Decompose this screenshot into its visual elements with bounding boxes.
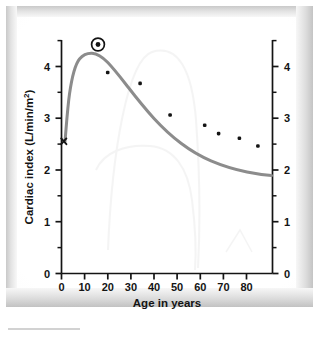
y-axis-title-paren: ) (23, 89, 35, 93)
circled-dot-icon (92, 38, 105, 51)
x-tick-label-50: 50 (171, 281, 183, 293)
x-axis-title: Age in years (133, 297, 201, 309)
right-axis: 0 1 2 3 4 (273, 40, 292, 280)
x-tick-label-30: 30 (125, 281, 137, 293)
left-axis-major-ticks (56, 67, 62, 274)
right-axis-major-ticks (273, 67, 279, 274)
left-tick-label-2: 2 (44, 164, 50, 176)
figure-page: 0 1 2 3 4 0 1 2 (0, 0, 325, 342)
left-tick-label-1: 1 (44, 216, 50, 228)
right-tick-label-4: 4 (284, 61, 291, 73)
cardiac-index-curve (65, 53, 272, 175)
right-tick-label-1: 1 (284, 216, 290, 228)
left-axis: 0 1 2 3 4 (44, 40, 62, 280)
x-tick-label-80: 80 (240, 281, 252, 293)
right-tick-label-3: 3 (284, 112, 290, 124)
data-point (217, 132, 221, 136)
right-tick-label-2: 2 (284, 164, 290, 176)
scan-ghosting (96, 51, 252, 270)
y-axis-title: Cardiac index (L/min/m2) (22, 89, 35, 224)
cardiac-index-chart: 0 1 2 3 4 0 1 2 (0, 0, 325, 342)
y-axis-title-main: Cardiac index (L/min/m (23, 98, 35, 225)
data-point (238, 136, 242, 140)
data-point (138, 82, 142, 86)
right-tick-label-0: 0 (284, 268, 290, 280)
x-tick-label-20: 20 (102, 281, 114, 293)
data-point-markers (106, 71, 260, 148)
x-axis: 0 10 20 30 40 50 60 70 80 (58, 274, 272, 294)
data-point (106, 71, 110, 75)
left-tick-label-3: 3 (44, 112, 50, 124)
data-point (203, 124, 207, 128)
svg-text:Cardiac index (L/min/m2): Cardiac index (L/min/m2) (22, 89, 35, 224)
x-tick-label-0: 0 (58, 281, 64, 293)
x-tick-label-60: 60 (194, 281, 206, 293)
x-axis-ticks (62, 274, 247, 280)
data-point (256, 144, 260, 148)
left-tick-label-4: 4 (44, 61, 51, 73)
x-tick-label-10: 10 (78, 281, 90, 293)
x-tick-label-70: 70 (217, 281, 229, 293)
data-point (168, 113, 172, 117)
left-tick-label-0: 0 (44, 268, 50, 280)
x-tick-label-40: 40 (148, 281, 160, 293)
